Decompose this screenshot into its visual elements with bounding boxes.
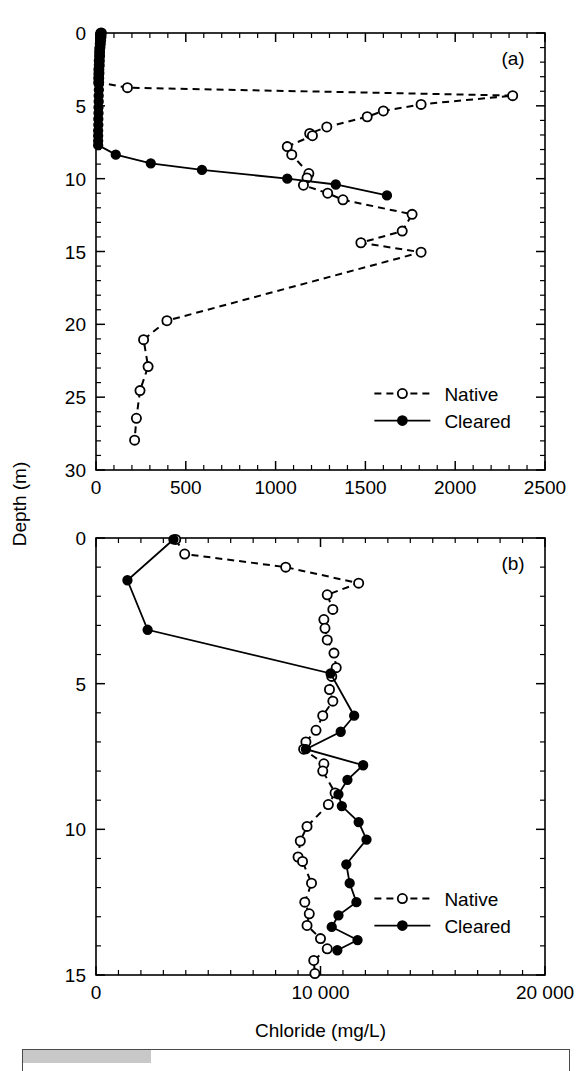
data-point-cleared: [343, 775, 352, 784]
y-axis-title: Depth (m): [9, 462, 30, 546]
data-point-native: [316, 934, 325, 943]
data-point-native: [323, 635, 332, 644]
data-point-cleared: [350, 711, 359, 720]
data-point-native: [135, 386, 144, 395]
data-point-cleared: [283, 174, 292, 183]
data-point-native: [408, 210, 417, 219]
data-point-native: [309, 956, 318, 965]
legend-entry-native: Native: [374, 384, 498, 405]
data-point-native: [307, 879, 316, 888]
data-point-native: [299, 181, 308, 190]
data-point-cleared: [342, 860, 351, 869]
data-point-native: [298, 857, 307, 866]
data-point-cleared: [336, 727, 345, 736]
data-point-native: [318, 766, 327, 775]
data-point-cleared: [326, 669, 335, 678]
data-point-native: [296, 836, 305, 845]
x-axis-title: Chloride (mg/L): [255, 1020, 386, 1041]
series-line-cleared: [98, 33, 387, 195]
data-point-native: [281, 563, 290, 572]
data-point-native: [180, 549, 189, 558]
data-point-native: [398, 227, 407, 236]
data-point-cleared: [302, 745, 311, 754]
chloride-depth-figure: 05001000150020002500051015202530(a)Nativ…: [0, 0, 586, 1071]
x-tick-label: 2000: [434, 477, 476, 498]
caption-gray-block: [23, 1050, 151, 1063]
data-point-native: [328, 697, 337, 706]
data-point-native: [325, 685, 334, 694]
legend-label-native: Native: [444, 889, 498, 910]
legend-marker-cleared: [398, 416, 407, 425]
data-point-native: [338, 195, 347, 204]
data-point-native: [324, 800, 333, 809]
data-point-native: [328, 605, 337, 614]
legend-label-cleared: Cleared: [444, 916, 511, 937]
data-point-native: [322, 122, 331, 131]
y-tick-label: 0: [75, 23, 86, 44]
data-point-native: [302, 921, 311, 930]
legend-marker-cleared: [398, 921, 407, 930]
data-point-cleared: [353, 936, 362, 945]
data-point-native: [311, 726, 320, 735]
data-point-native: [308, 131, 317, 140]
data-point-native: [416, 100, 425, 109]
data-point-native: [363, 112, 372, 121]
data-point-cleared: [198, 166, 207, 175]
data-point-cleared: [337, 802, 346, 811]
data-point-cleared: [334, 911, 343, 920]
x-tick-label: 20 000: [516, 982, 574, 1003]
legend-entry-cleared: Cleared: [374, 411, 511, 432]
data-point-native: [139, 335, 148, 344]
legend-label-cleared: Cleared: [444, 411, 511, 432]
data-point-cleared: [354, 818, 363, 827]
data-point-native: [379, 106, 388, 115]
data-point-cleared: [359, 761, 368, 770]
data-point-cleared: [94, 141, 103, 150]
chart-canvas: 05001000150020002500051015202530(a)Nativ…: [0, 0, 586, 1071]
data-point-cleared: [352, 898, 361, 907]
data-point-native: [354, 579, 363, 588]
x-tick-label: 1000: [254, 477, 296, 498]
data-point-native: [323, 189, 332, 198]
data-point-native: [143, 362, 152, 371]
y-tick-label: 10: [65, 819, 86, 840]
plot-panel-a: 05001000150020002500051015202530(a)Nativ…: [65, 23, 566, 498]
data-point-native: [162, 316, 171, 325]
data-point-cleared: [327, 923, 336, 932]
data-point-native: [323, 944, 332, 953]
data-point-cleared: [331, 180, 340, 189]
legend-label-native: Native: [444, 384, 498, 405]
y-tick-label: 25: [65, 387, 86, 408]
x-tick-label: 0: [91, 477, 102, 498]
data-point-native: [287, 150, 296, 159]
data-point-cleared: [143, 625, 152, 634]
data-point-native: [508, 91, 517, 100]
data-point-cleared: [345, 879, 354, 888]
data-point-native: [302, 822, 311, 831]
data-point-native: [329, 648, 338, 657]
data-point-native: [318, 711, 327, 720]
y-tick-label: 15: [65, 242, 86, 263]
data-point-native: [416, 248, 425, 257]
data-point-native: [356, 238, 365, 247]
y-tick-label: 30: [65, 460, 86, 481]
legend-entry-cleared: Cleared: [374, 916, 511, 937]
y-tick-label: 15: [65, 965, 86, 986]
x-tick-label: 500: [170, 477, 202, 498]
x-tick-label: 10 000: [291, 982, 349, 1003]
y-tick-label: 10: [65, 169, 86, 190]
data-point-cleared: [123, 576, 132, 585]
legend-marker-native: [398, 389, 407, 398]
x-tick-label: 1500: [344, 477, 386, 498]
data-point-native: [319, 615, 328, 624]
panel-label-b: (b): [501, 553, 524, 574]
panel-label-a: (a): [501, 48, 524, 69]
plot-panel-b: 010 00020 000051015(b)NativeCleared: [65, 528, 574, 1003]
data-point-native: [300, 898, 309, 907]
data-point-cleared: [169, 535, 178, 544]
data-point-cleared: [146, 159, 155, 168]
data-point-cleared: [383, 191, 392, 200]
x-tick-label: 0: [91, 982, 102, 1003]
x-tick-label: 2500: [524, 477, 566, 498]
y-tick-label: 0: [75, 528, 86, 549]
